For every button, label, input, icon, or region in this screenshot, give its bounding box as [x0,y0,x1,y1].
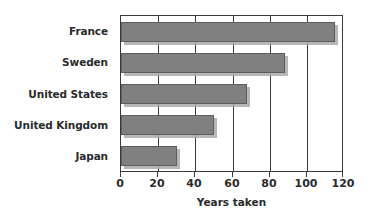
bar-slot-japan [121,140,342,171]
x-axis-tick-labels: 020406080100120 [120,177,343,192]
x-axis-tick-label-20: 20 [149,177,164,190]
y-axis-label-united-kingdom: United Kingdom [0,109,114,140]
y-axis-label-japan: Japan [0,141,114,172]
bar-japan [121,146,177,166]
x-axis-tick-label-100: 100 [295,177,318,190]
bar-slot-united-states [121,78,342,109]
bar-sweden [121,53,285,73]
bars-group [121,16,342,171]
x-axis-title: Years taken [120,196,343,208]
bar-united-states [121,84,247,104]
y-axis-label-sweden: Sweden [0,46,114,77]
y-axis-label-france: France [0,15,114,46]
bar-slot-united-kingdom [121,109,342,140]
x-axis-tick-label-120: 120 [332,177,355,190]
bar-united-kingdom [121,115,214,135]
x-axis-tick-label-60: 60 [224,177,239,190]
x-axis-tick-label-0: 0 [116,177,124,190]
bar-slot-france [121,16,342,47]
plot-area [120,15,343,172]
x-axis-tick-label-40: 40 [186,177,201,190]
x-axis-tick-label-80: 80 [261,177,276,190]
bar-chart: France Sweden United States United Kingd… [0,0,367,217]
bar-slot-sweden [121,47,342,78]
y-axis-label-united-states: United States [0,78,114,109]
bar-france [121,22,335,42]
y-axis-category-labels: France Sweden United States United Kingd… [0,15,114,172]
